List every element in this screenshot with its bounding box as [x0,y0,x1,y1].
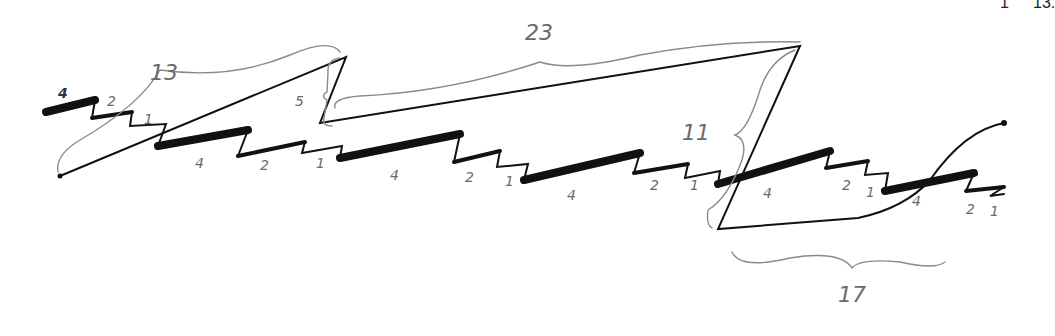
step-4-3 [524,153,640,180]
label-step-2: 2 [260,157,269,173]
brace-23 [335,42,800,108]
label-step-1: 1 [316,155,325,171]
label-step-4: 4 [567,187,576,203]
end-point [1001,120,1007,126]
brace-17 [732,252,945,268]
step-2-1 [238,142,305,156]
label-step-1: 1 [690,177,699,193]
step-4-1 [158,130,248,146]
step-2-0 [92,112,132,118]
label-step-2: 2 [842,177,851,193]
staircase [46,100,1004,196]
label-5: 5 [295,93,304,109]
label-step-4: 4 [57,85,68,101]
label-17: 17 [838,282,866,307]
step-2-3 [634,164,688,173]
label-23: 23 [525,20,553,45]
label-step-4: 4 [390,167,399,183]
step-4-0 [46,100,95,112]
label-step-4: 4 [912,193,921,209]
label-step-4: 4 [763,185,772,201]
label-step-1: 1 [990,203,999,219]
step-2-2 [454,151,500,162]
label-step-4: 4 [195,155,204,171]
brace-11 [708,50,796,228]
label-step-1: 1 [866,184,875,200]
step-4-4 [718,151,830,184]
label-11: 11 [682,120,710,145]
label-step-1: 1 [505,173,514,189]
label-13: 13 [150,60,178,85]
label-step-2: 2 [650,177,659,193]
label-step-2: 2 [465,169,474,185]
label-step-1: 1 [144,111,153,127]
step-4-2 [340,134,460,158]
step-2-4 [826,161,868,168]
start-point [58,174,63,179]
label-step-2: 2 [966,201,975,217]
label-step-2: 2 [107,93,116,109]
